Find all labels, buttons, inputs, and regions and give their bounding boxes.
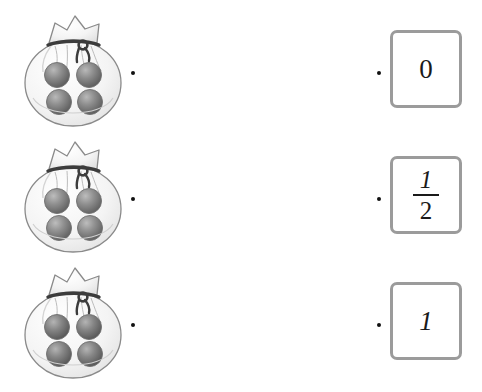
marble <box>77 189 102 214</box>
fraction-denominator: 2 <box>416 196 437 223</box>
bag-icon <box>17 136 129 256</box>
worksheet-canvas: 0 <box>0 0 482 392</box>
matching-row: 1 <box>0 258 482 384</box>
bag-icon <box>17 10 129 130</box>
connector-dot-right[interactable] <box>377 197 381 201</box>
fraction-one-half: 1 2 <box>413 167 439 223</box>
matching-row: 1 2 <box>0 132 482 258</box>
answer-value: 1 <box>419 308 433 335</box>
marble-bag-illustration[interactable] <box>17 10 129 130</box>
connector-dot-left[interactable] <box>131 197 135 201</box>
answer-box[interactable]: 0 <box>390 30 462 108</box>
marble-bag-illustration[interactable] <box>17 262 129 382</box>
connector-dot-right[interactable] <box>377 71 381 75</box>
connector-dot-left[interactable] <box>131 323 135 327</box>
answer-value: 0 <box>419 56 433 83</box>
bag-icon <box>17 262 129 382</box>
fraction-numerator: 1 <box>416 167 437 194</box>
marble <box>47 216 72 241</box>
connector-dot-right[interactable] <box>377 323 381 327</box>
marble <box>47 90 72 115</box>
marble <box>77 63 102 88</box>
marble-bag-illustration[interactable] <box>17 136 129 256</box>
marble <box>45 63 70 88</box>
marble <box>45 315 70 340</box>
answer-box[interactable]: 1 <box>390 282 462 360</box>
marble <box>77 315 102 340</box>
connector-dot-left[interactable] <box>131 71 135 75</box>
answer-box[interactable]: 1 2 <box>390 156 462 234</box>
matching-row: 0 <box>0 6 482 132</box>
marble <box>47 342 72 367</box>
marble <box>45 189 70 214</box>
